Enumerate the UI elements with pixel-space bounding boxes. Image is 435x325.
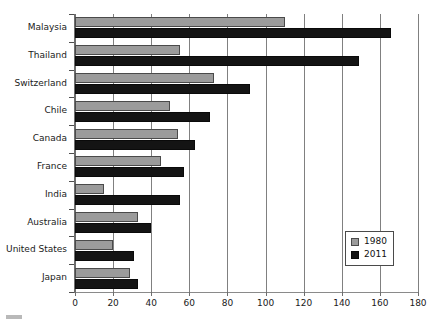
y-tick-7 [69, 209, 74, 210]
legend-item-2011[interactable]: 2011 [351, 248, 387, 261]
bar-switzerland-1980 [75, 73, 214, 83]
y-axis-label-united-states: United States [6, 244, 67, 255]
y-tick-8 [69, 236, 74, 237]
y-axis-line [74, 14, 75, 293]
y-axis-label-malaysia: Malaysia [28, 22, 67, 33]
x-tick-0 [75, 292, 76, 296]
bar-canada-1980 [75, 129, 178, 139]
x-tick-40 [151, 292, 152, 296]
bar-france-1980 [75, 156, 161, 166]
y-tick-3 [69, 97, 74, 98]
bar-chart: MalaysiaThailandSwitzerlandChileCanadaFr… [0, 0, 435, 325]
x-tick-label-20: 20 [98, 298, 128, 309]
y-axis-label-australia: Australia [27, 217, 67, 228]
legend-label-1980: 1980 [364, 236, 387, 247]
corner-mark [6, 315, 22, 319]
y-axis-label-chile: Chile [44, 105, 67, 116]
x-tick-140 [342, 292, 343, 296]
y-tick-0 [69, 14, 74, 15]
bar-switzerland-2011 [75, 84, 250, 94]
x-tick-label-120: 120 [289, 298, 319, 309]
x-tick-label-100: 100 [251, 298, 281, 309]
x-tick-label-140: 140 [327, 298, 357, 309]
chart-legend[interactable]: 1980 2011 [345, 231, 394, 266]
x-tick-label-0: 0 [60, 298, 90, 309]
y-axis-label-switzerland: Switzerland [15, 78, 68, 89]
bar-australia-1980 [75, 212, 138, 222]
x-tick-label-160: 160 [365, 298, 395, 309]
y-tick-5 [69, 153, 74, 154]
y-tick-2 [69, 70, 74, 71]
y-axis-label-canada: Canada [33, 133, 67, 144]
bar-thailand-2011 [75, 56, 359, 66]
bar-united-states-1980 [75, 240, 113, 250]
legend-item-1980[interactable]: 1980 [351, 235, 387, 248]
bar-thailand-1980 [75, 45, 180, 55]
bar-chile-1980 [75, 101, 170, 111]
bar-canada-2011 [75, 140, 195, 150]
y-tick-10 [69, 292, 74, 293]
gridline-180 [418, 14, 419, 292]
x-tick-label-40: 40 [136, 298, 166, 309]
x-tick-100 [266, 292, 267, 296]
bar-malaysia-2011 [75, 28, 391, 38]
x-tick-label-60: 60 [174, 298, 204, 309]
legend-swatch-black-icon [351, 251, 359, 259]
x-tick-label-180: 180 [403, 298, 433, 309]
y-tick-4 [69, 125, 74, 126]
y-axis-label-france: France [37, 161, 67, 172]
bar-united-states-2011 [75, 251, 134, 261]
y-tick-9 [69, 264, 74, 265]
legend-swatch-gray-icon [351, 238, 359, 246]
bar-japan-2011 [75, 279, 138, 289]
bar-australia-2011 [75, 223, 151, 233]
x-tick-60 [189, 292, 190, 296]
x-tick-80 [227, 292, 228, 296]
y-tick-6 [69, 181, 74, 182]
bar-malaysia-1980 [75, 17, 285, 27]
bar-france-2011 [75, 167, 184, 177]
bar-india-1980 [75, 184, 104, 194]
x-tick-120 [304, 292, 305, 296]
y-axis-label-india: India [45, 189, 67, 200]
x-tick-160 [380, 292, 381, 296]
bar-chile-2011 [75, 112, 210, 122]
bar-india-2011 [75, 195, 180, 205]
x-axis-line [75, 292, 419, 293]
x-tick-20 [113, 292, 114, 296]
y-tick-1 [69, 42, 74, 43]
bar-japan-1980 [75, 268, 130, 278]
y-axis-label-thailand: Thailand [28, 50, 67, 61]
x-tick-180 [418, 292, 419, 296]
legend-label-2011: 2011 [364, 249, 387, 260]
x-tick-label-80: 80 [212, 298, 242, 309]
y-axis-label-japan: Japan [42, 272, 67, 283]
